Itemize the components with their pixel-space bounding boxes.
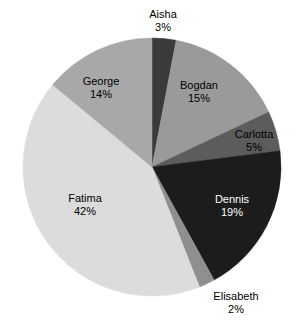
pie-label-bogdan: Bogdan15% [180, 79, 218, 105]
pie-label-name: Bogdan [180, 79, 218, 92]
pie-label-percent: 14% [83, 88, 120, 101]
pie-label-aisha: Aisha3% [149, 8, 177, 34]
pie-label-percent: 19% [215, 206, 249, 219]
pie-label-percent: 15% [180, 92, 218, 105]
pie-label-percent: 42% [68, 205, 102, 218]
pie-label-fatima: Fatima42% [68, 192, 102, 218]
pie-label-percent: 5% [235, 141, 274, 154]
pie-label-name: George [83, 75, 120, 88]
pie-label-name: Aisha [149, 8, 177, 21]
pie-label-dennis: Dennis19% [215, 193, 249, 219]
pie-label-name: Carlotta [235, 128, 274, 141]
pie-label-name: Elisabeth [213, 290, 258, 303]
pie-chart-canvas [0, 0, 295, 326]
pie-slice-group [23, 38, 281, 296]
pie-label-george: George14% [83, 75, 120, 101]
pie-label-carlotta: Carlotta5% [235, 128, 274, 154]
pie-label-name: Fatima [68, 192, 102, 205]
pie-label-percent: 3% [149, 21, 177, 34]
pie-label-percent: 2% [213, 303, 258, 316]
pie-label-elisabeth: Elisabeth2% [213, 290, 258, 316]
pie-label-name: Dennis [215, 193, 249, 206]
pie-chart-figure: Aisha3%Bogdan15%Carlotta5%Dennis19%Elisa… [0, 0, 295, 326]
